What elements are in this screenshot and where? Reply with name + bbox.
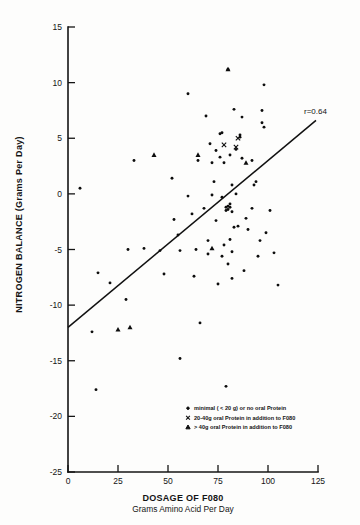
- data-point: [231, 210, 234, 213]
- x-tick-label: 50: [163, 476, 173, 486]
- data-point: [243, 269, 246, 272]
- data-point: [203, 207, 206, 210]
- data-point: [223, 244, 226, 247]
- data-point: [261, 109, 264, 112]
- data-point: [197, 159, 200, 162]
- data-point: [116, 327, 121, 332]
- legend-label: minimal ( < 20 g) or no oral Protein: [194, 405, 287, 411]
- data-point: [226, 67, 231, 72]
- data-point: [237, 225, 240, 228]
- x-tick-label: 25: [113, 476, 123, 486]
- data-point: [229, 206, 232, 209]
- data-point: [195, 248, 198, 251]
- data-point: [177, 234, 180, 237]
- legend-marker-triangle: [186, 425, 190, 429]
- data-point: [227, 208, 230, 211]
- regression-trendline: [68, 120, 316, 327]
- data-point: [199, 321, 202, 324]
- data-point: [244, 160, 249, 165]
- data-points: [79, 67, 280, 391]
- data-point: [219, 156, 222, 159]
- chart-legend: minimal ( < 20 g) or no oral Protein20-4…: [186, 405, 295, 430]
- data-point: [91, 330, 94, 333]
- data-point: [231, 277, 234, 280]
- x-axis-title: DOSAGE OF F080: [142, 493, 223, 503]
- data-point: [265, 231, 268, 234]
- y-axis-title: NITROGEN BALANCE (Grams Per Day): [14, 136, 24, 313]
- series-0: [79, 68, 280, 391]
- axis-titles: DOSAGE OF F080Grams Amino Acid Per DayNI…: [14, 136, 235, 514]
- data-point: [241, 157, 244, 160]
- y-tick-label: 5: [57, 133, 62, 143]
- y-tick-label: -5: [54, 245, 62, 255]
- scatter-plot-figure: 151050-5-10-15-20-250255075100125 r=0.64…: [0, 0, 360, 525]
- data-point: [187, 92, 190, 95]
- data-point: [187, 195, 190, 198]
- data-point: [251, 159, 254, 162]
- y-tick-label: 0: [57, 189, 62, 199]
- data-point: [253, 184, 256, 187]
- data-point: [229, 238, 232, 241]
- data-point: [255, 180, 258, 183]
- data-point: [231, 184, 234, 187]
- data-point: [173, 218, 176, 221]
- data-point: [127, 248, 130, 251]
- data-point: [261, 121, 264, 124]
- data-point: [211, 161, 214, 164]
- data-point: [179, 249, 182, 252]
- data-point: [277, 284, 280, 287]
- data-point: [245, 217, 248, 220]
- data-point: [263, 126, 266, 129]
- data-point: [273, 251, 276, 254]
- series-2: [116, 67, 249, 332]
- data-point: [221, 255, 224, 258]
- data-point: [247, 228, 250, 231]
- data-point: [152, 152, 157, 157]
- data-point: [205, 115, 208, 118]
- y-tick-label: -25: [50, 467, 63, 477]
- legend-label: 20-40g oral Protein in addition to F080: [194, 415, 295, 421]
- data-point: [257, 255, 260, 258]
- data-point: [125, 298, 128, 301]
- data-point: [223, 161, 226, 164]
- series-1: [222, 136, 240, 149]
- data-point: [143, 247, 146, 250]
- x-tick-label: 75: [213, 476, 223, 486]
- x-tick-label: 125: [311, 476, 325, 486]
- data-point: [221, 131, 224, 134]
- regression-line: [68, 120, 316, 327]
- data-point: [233, 108, 236, 111]
- legend-marker-cross: [186, 416, 190, 420]
- data-point: [95, 388, 98, 391]
- data-point: [235, 192, 238, 195]
- data-point: [207, 253, 210, 256]
- correlation-annotation: r=0.64: [304, 107, 327, 116]
- data-point: [207, 239, 210, 242]
- x-axis-subtitle: Grams Amino Acid Per Day: [132, 504, 234, 514]
- data-point: [109, 281, 112, 284]
- data-point: [79, 187, 82, 190]
- x-tick-label: 100: [261, 476, 275, 486]
- data-point: [269, 209, 272, 212]
- y-tick-label: -10: [50, 300, 63, 310]
- data-point: [97, 271, 100, 274]
- data-point: [241, 116, 244, 119]
- data-point: [193, 275, 196, 278]
- data-point: [215, 149, 218, 152]
- chart-annotations: r=0.64: [304, 107, 327, 116]
- y-tick-label: 10: [53, 78, 63, 88]
- chart-canvas: 151050-5-10-15-20-250255075100125 r=0.64…: [0, 0, 360, 525]
- data-point: [213, 180, 216, 183]
- data-point: [263, 83, 266, 86]
- data-point: [215, 219, 218, 222]
- data-point: [128, 325, 133, 330]
- data-point: [251, 207, 254, 210]
- data-point: [211, 194, 214, 197]
- data-point: [233, 226, 236, 229]
- data-point: [133, 159, 136, 162]
- data-point: [191, 212, 194, 215]
- data-point: [227, 263, 230, 266]
- data-point: [159, 249, 162, 252]
- data-point: [222, 143, 226, 147]
- data-point: [179, 357, 182, 360]
